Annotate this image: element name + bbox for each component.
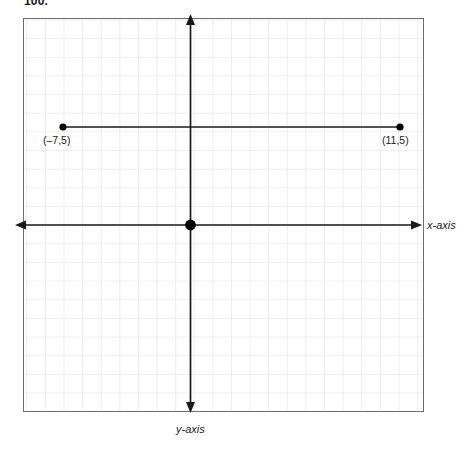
point-label-right: (11,5): [382, 134, 409, 146]
y-axis-label: y-axis: [176, 423, 205, 435]
point-label-left: (–7,5): [43, 134, 70, 146]
coordinate-plane: [23, 18, 424, 412]
page-title: 100.: [24, 0, 48, 8]
x-axis-label: x-axis: [427, 219, 456, 231]
grid-lines: [24, 19, 423, 411]
